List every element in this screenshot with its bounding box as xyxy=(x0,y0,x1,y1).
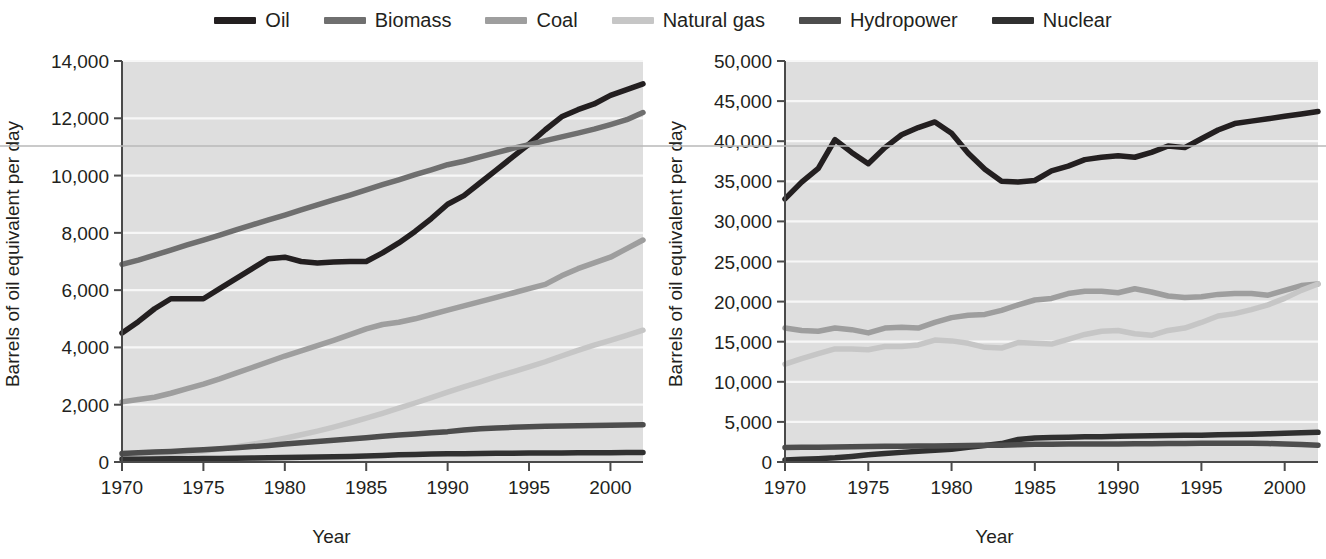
legend-item-natural-gas: Natural gas xyxy=(612,10,765,30)
legend-item-oil: Oil xyxy=(214,10,289,30)
x-tick-label: 1975 xyxy=(182,477,224,498)
y-tick-label: 50,000 xyxy=(714,51,772,72)
y-tick-label: 0 xyxy=(761,452,772,473)
chart-panel-developing: Barrels of oil equivalent per day 02,000… xyxy=(0,40,663,559)
y-tick-label: 0 xyxy=(98,452,109,473)
x-tick-label: 2000 xyxy=(589,477,631,498)
legend-line-swatch xyxy=(324,17,366,24)
legend-label: Oil xyxy=(265,10,289,30)
legend-line-swatch xyxy=(485,17,527,24)
x-tick-label: 1975 xyxy=(847,477,889,498)
x-tick-label: 1995 xyxy=(1180,477,1222,498)
legend-label: Natural gas xyxy=(663,10,765,30)
x-tick-label: 1980 xyxy=(264,477,306,498)
x-tick-label: 1980 xyxy=(930,477,972,498)
y-tick-label: 15,000 xyxy=(714,332,772,353)
x-tick-label: 1970 xyxy=(101,477,143,498)
y-tick-label: 10,000 xyxy=(714,372,772,393)
line-chart-industrialized: 05,00010,00015,00020,00025,00030,00035,0… xyxy=(663,40,1326,559)
x-tick-label: 2000 xyxy=(1264,477,1306,498)
legend-item-nuclear: Nuclear xyxy=(992,10,1112,30)
x-tick-label: 1985 xyxy=(345,477,387,498)
legend-item-biomass: Biomass xyxy=(324,10,452,30)
chart-panel-industrialized: Barrels of oil equivalent per day 05,000… xyxy=(663,40,1326,559)
x-tick-label: 1990 xyxy=(1097,477,1139,498)
y-tick-label: 35,000 xyxy=(714,171,772,192)
y-tick-label: 10,000 xyxy=(51,166,109,187)
legend-label: Hydropower xyxy=(850,10,958,30)
y-tick-label: 4,000 xyxy=(61,337,109,358)
y-tick-label: 2,000 xyxy=(61,395,109,416)
x-tick-label: 1985 xyxy=(1014,477,1056,498)
legend-item-coal: Coal xyxy=(485,10,577,30)
x-axis-title-right: Year xyxy=(663,526,1326,548)
y-tick-label: 45,000 xyxy=(714,91,772,112)
legend-label: Biomass xyxy=(375,10,452,30)
y-tick-label: 12,000 xyxy=(51,108,109,129)
x-tick-label: 1970 xyxy=(764,477,806,498)
x-tick-label: 1990 xyxy=(426,477,468,498)
legend-line-swatch xyxy=(992,17,1034,24)
y-tick-label: 20,000 xyxy=(714,292,772,313)
y-tick-label: 14,000 xyxy=(51,51,109,72)
legend-label: Nuclear xyxy=(1043,10,1112,30)
chart-legend: OilBiomassCoalNatural gasHydropowerNucle… xyxy=(0,0,1326,40)
plot-background xyxy=(122,61,643,462)
x-axis-title-left: Year xyxy=(0,526,663,548)
legend-label: Coal xyxy=(536,10,577,30)
y-tick-label: 6,000 xyxy=(61,280,109,301)
x-tick-label: 1995 xyxy=(508,477,550,498)
y-tick-label: 30,000 xyxy=(714,211,772,232)
y-tick-label: 40,000 xyxy=(714,131,772,152)
legend-line-swatch xyxy=(214,17,256,24)
legend-line-swatch xyxy=(612,17,654,24)
legend-line-swatch xyxy=(799,17,841,24)
y-tick-label: 25,000 xyxy=(714,252,772,273)
legend-item-hydropower: Hydropower xyxy=(799,10,958,30)
y-tick-label: 8,000 xyxy=(61,223,109,244)
y-tick-label: 5,000 xyxy=(724,412,772,433)
line-chart-developing: 02,0004,0006,0008,00010,00012,00014,0001… xyxy=(0,40,663,559)
